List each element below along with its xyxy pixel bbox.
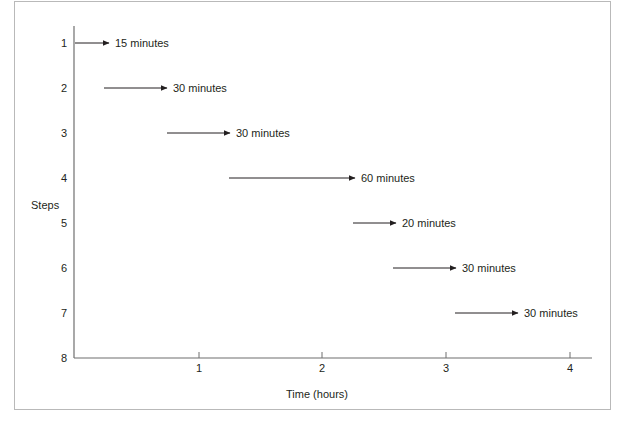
- y-tick-label-3: 3: [47, 127, 67, 139]
- task-duration-label-step-1: 15 minutes: [115, 37, 169, 49]
- task-arrows: [75, 43, 518, 313]
- y-tick-label-2: 2: [47, 82, 67, 94]
- task-duration-label-step-5: 20 minutes: [402, 217, 456, 229]
- y-tick-label-4: 4: [47, 172, 67, 184]
- figure-canvas: 1 2 3 4 5 6 7 8 1 2 3 4 15 minutes 30 mi…: [0, 0, 634, 433]
- x-axis-ticks: [199, 352, 570, 358]
- x-tick-label-1: 1: [187, 362, 211, 374]
- y-tick-label-6: 6: [47, 262, 67, 274]
- task-duration-label-step-2: 30 minutes: [173, 82, 227, 94]
- y-tick-label-8: 8: [47, 352, 67, 364]
- y-tick-label-7: 7: [47, 307, 67, 319]
- task-duration-label-step-7: 30 minutes: [524, 307, 578, 319]
- y-tick-label-1: 1: [47, 37, 67, 49]
- x-tick-label-4: 4: [558, 362, 582, 374]
- task-duration-label-step-4: 60 minutes: [361, 172, 415, 184]
- x-tick-label-3: 3: [434, 362, 458, 374]
- y-tick-label-5: 5: [47, 217, 67, 229]
- task-duration-label-step-6: 30 minutes: [462, 262, 516, 274]
- x-axis-title: Time (hours): [0, 388, 634, 400]
- x-tick-label-2: 2: [310, 362, 334, 374]
- task-duration-label-step-3: 30 minutes: [236, 127, 290, 139]
- y-axis-title: Steps: [31, 199, 59, 211]
